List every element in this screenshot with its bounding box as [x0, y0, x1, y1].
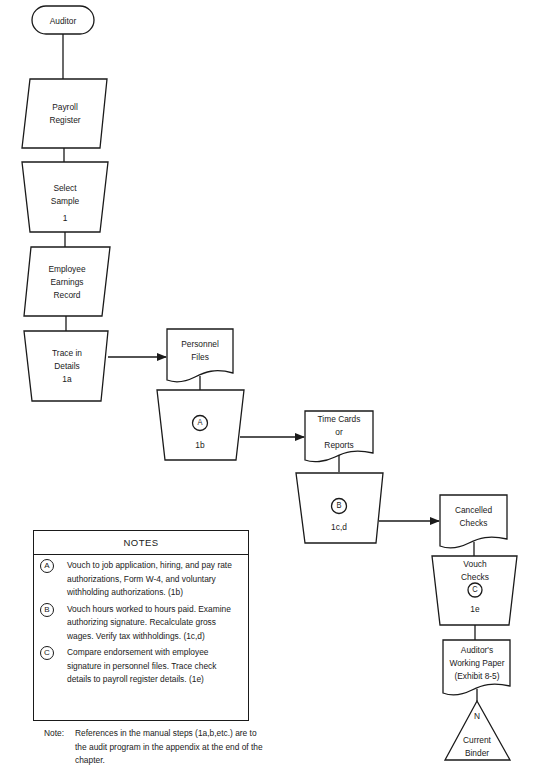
working-paper-line2: Working Paper: [444, 656, 509, 669]
trace-details-line2: Details: [31, 359, 103, 372]
cancelled-checks-line1: Cancelled: [444, 503, 503, 516]
payroll-register-line2: Register: [29, 113, 101, 126]
trace-details-label: Trace in Details 1a: [31, 346, 103, 385]
cancelled-checks-label: Cancelled Checks: [444, 503, 503, 529]
select-sample-ref: 1: [29, 211, 101, 224]
working-paper-label: Auditor's Working Paper (Exhibit 8-5): [444, 643, 509, 682]
footnote-label: Note:: [44, 727, 64, 741]
auditor-label: Auditor: [36, 14, 91, 27]
note-b-circle-icon: B: [40, 603, 54, 617]
note-b-text: Vouch hours worked to hours paid. Examin…: [67, 604, 231, 641]
note-item-c: C Compare endorsement with employee sign…: [34, 646, 248, 687]
select-sample-line1: Select: [29, 181, 101, 194]
vouch-checks-line2: Checks: [440, 570, 510, 583]
vouch-checks-marker: C: [468, 583, 482, 596]
current-binder-line2: Binder: [451, 746, 504, 759]
employee-earnings-label: Employee Earnings Record: [31, 262, 103, 301]
note-a-circle-icon: A: [40, 559, 54, 573]
personnel-files-line2: Files: [171, 350, 229, 363]
trace-details-line1: Trace in: [31, 346, 103, 359]
current-binder-line1: Current: [451, 733, 504, 746]
select-sample-label: Select Sample 1: [29, 181, 101, 224]
current-binder-marker: N: [468, 709, 486, 722]
payroll-register-label: Payroll Register: [29, 100, 101, 126]
employee-earnings-line2: Earnings: [31, 275, 103, 288]
time-cards-line2: or: [309, 425, 369, 438]
step-b-marker-text: B: [336, 500, 341, 510]
notes-title: NOTES: [34, 531, 248, 555]
vouch-checks-label: Vouch Checks: [440, 557, 510, 583]
personnel-files-label: Personnel Files: [171, 337, 229, 363]
note-c-circle-icon: C: [40, 646, 54, 660]
footnote-text: References in the manual steps (1a,b,etc…: [75, 727, 264, 768]
employee-earnings-line3: Record: [31, 288, 103, 301]
step-b-ref: 1c,d: [321, 520, 356, 533]
step-a-marker-text: A: [197, 417, 202, 427]
time-cards-line3: Reports: [309, 438, 369, 451]
trace-details-ref: 1a: [31, 372, 103, 385]
personnel-files-line1: Personnel: [171, 337, 229, 350]
employee-earnings-line1: Employee: [31, 262, 103, 275]
step-b-marker: B: [332, 499, 346, 512]
time-cards-label: Time Cards or Reports: [309, 412, 369, 451]
vouch-checks-marker-text: C: [472, 584, 477, 594]
working-paper-line1: Auditor's: [444, 643, 509, 656]
vouch-checks-ref: 1e: [457, 602, 492, 615]
cancelled-checks-line2: Checks: [444, 516, 503, 529]
step-b-ref-text: 1c,d: [331, 521, 347, 532]
footnote: Note: References in the manual steps (1a…: [44, 727, 264, 768]
note-c-text: Compare endorsement with employee signat…: [67, 647, 216, 684]
auditor-text: Auditor: [50, 15, 76, 26]
current-binder-label: Current Binder: [451, 733, 504, 759]
note-item-a: A Vouch to job application, hiring, and …: [34, 559, 248, 600]
step-a-marker: A: [193, 416, 207, 429]
vouch-checks-ref-text: 1e: [470, 603, 479, 614]
time-cards-line1: Time Cards: [309, 412, 369, 425]
payroll-register-line1: Payroll: [29, 100, 101, 113]
current-binder-marker-text: N: [474, 710, 480, 721]
working-paper-line3: (Exhibit 8-5): [444, 669, 509, 682]
select-sample-line2: Sample: [29, 194, 101, 207]
notes-box: NOTES A Vouch to job application, hiring…: [33, 530, 249, 721]
note-item-b: B Vouch hours worked to hours paid. Exam…: [34, 603, 248, 644]
vouch-checks-line1: Vouch: [440, 557, 510, 570]
note-a-text: Vouch to job application, hiring, and pa…: [67, 560, 232, 597]
step-a-ref: 1b: [182, 438, 217, 451]
step-a-ref-text: 1b: [195, 439, 204, 450]
